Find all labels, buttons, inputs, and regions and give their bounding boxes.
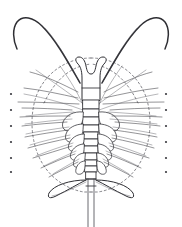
telson-tail bbox=[86, 179, 96, 227]
margin-dot bbox=[165, 93, 167, 95]
margin-dots-left bbox=[10, 93, 12, 173]
left-limb-lobes bbox=[62, 112, 85, 174]
margin-dot bbox=[165, 171, 167, 173]
head-shield bbox=[76, 57, 106, 100]
trunk-segments bbox=[83, 100, 99, 179]
margin-dot bbox=[10, 125, 12, 127]
right-antenna bbox=[102, 18, 168, 83]
margin-dot bbox=[10, 93, 12, 95]
margin-dot bbox=[165, 125, 167, 127]
margin-dot bbox=[10, 141, 12, 143]
margin-dots-right bbox=[165, 93, 167, 173]
left-antenna bbox=[14, 18, 80, 83]
margin-dot bbox=[165, 141, 167, 143]
specimen-illustration bbox=[0, 0, 182, 227]
margin-dot bbox=[10, 171, 12, 173]
margin-dot bbox=[10, 109, 12, 111]
margin-dot bbox=[165, 157, 167, 159]
margin-dot bbox=[10, 157, 12, 159]
figure-root: Arthropod larva, dorsal view bbox=[0, 0, 182, 227]
margin-dot bbox=[165, 109, 167, 111]
right-limb-lobes bbox=[97, 112, 120, 174]
